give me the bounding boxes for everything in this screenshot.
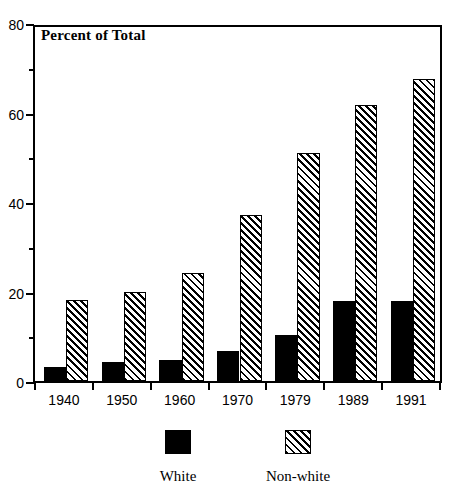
y-tick-minor (29, 248, 34, 250)
x-tick (150, 383, 152, 390)
y-tick-label-60: 60 (0, 108, 24, 122)
x-tick-label-1979: 1979 (265, 392, 325, 408)
y-tick-label-0: 0 (0, 376, 24, 390)
x-tick (323, 383, 325, 390)
x-tick (34, 383, 36, 390)
y-tick-major (26, 293, 34, 295)
legend-label: Non-white (238, 468, 358, 485)
x-tick (381, 383, 383, 390)
x-tick-label-1950: 1950 (92, 392, 152, 408)
y-axis: 020406080 (0, 0, 453, 496)
x-tick-label-1989: 1989 (323, 392, 383, 408)
y-tick-minor (29, 158, 34, 160)
x-tick-label-1940: 1940 (34, 392, 94, 408)
chart-legend: WhiteNon-white (0, 430, 453, 496)
y-tick-minor (29, 337, 34, 339)
y-tick-label-80: 80 (0, 18, 24, 32)
x-tick (439, 383, 441, 390)
y-tick-label-40: 40 (0, 197, 24, 211)
y-tick-major (26, 24, 34, 26)
legend-item-white: White (118, 430, 238, 485)
x-tick-label-1970: 1970 (208, 392, 268, 408)
y-tick-minor (29, 69, 34, 71)
legend-swatch-hatched-square (285, 430, 311, 454)
x-tick (265, 383, 267, 390)
x-tick (208, 383, 210, 390)
legend-label: White (118, 468, 238, 485)
y-tick-major (26, 203, 34, 205)
y-tick-major (26, 114, 34, 116)
y-tick-label-20: 20 (0, 287, 24, 301)
legend-swatch-solid-black-square (165, 430, 191, 454)
chart-figure: Percent of Total 020406080 1940195019601… (0, 0, 453, 496)
x-tick-label-1960: 1960 (150, 392, 210, 408)
legend-item-non-white: Non-white (238, 430, 358, 485)
x-tick-label-1991: 1991 (381, 392, 441, 408)
x-tick (92, 383, 94, 390)
y-tick-major (26, 382, 34, 384)
